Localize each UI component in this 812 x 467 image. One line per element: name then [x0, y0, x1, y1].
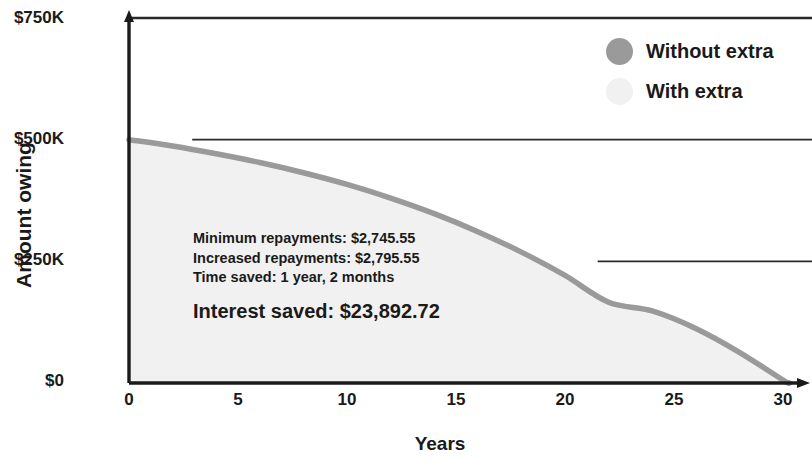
x-tick-30: 30 — [763, 390, 803, 410]
y-tick-500k: $500K — [0, 129, 64, 149]
annotation-minimum-repayments: Minimum repayments: $2,745.55 — [193, 229, 440, 249]
legend-label-with-extra: With extra — [646, 80, 743, 103]
x-tick-15: 15 — [436, 390, 476, 410]
legend-label-without-extra: Without extra — [646, 40, 774, 63]
legend-item-with-extra: With extra — [606, 74, 774, 108]
y-tick-750k: $750K — [0, 8, 64, 28]
legend-item-without-extra: Without extra — [606, 34, 774, 68]
loan-repayment-chart: Amount owing $750K $500K $250K $0 0 5 10… — [0, 0, 812, 467]
legend-swatch-icon-with-extra — [606, 78, 633, 105]
x-tick-20: 20 — [545, 390, 585, 410]
x-tick-10: 10 — [327, 390, 367, 410]
summary-annotation: Minimum repayments: $2,745.55 Increased … — [193, 229, 440, 323]
annotation-time-saved: Time saved: 1 year, 2 months — [193, 268, 440, 288]
annotation-increased-repayments: Increased repayments: $2,795.55 — [193, 249, 440, 269]
chart-legend: Without extra With extra — [606, 34, 774, 114]
x-tick-0: 0 — [109, 390, 149, 410]
y-tick-0: $0 — [0, 371, 64, 391]
legend-swatch-icon-without-extra — [606, 38, 633, 65]
annotation-interest-saved: Interest saved: $23,892.72 — [193, 300, 440, 323]
x-tick-25: 25 — [654, 390, 694, 410]
x-axis-title: Years — [380, 433, 500, 455]
y-tick-250k: $250K — [0, 250, 64, 270]
x-tick-5: 5 — [218, 390, 258, 410]
